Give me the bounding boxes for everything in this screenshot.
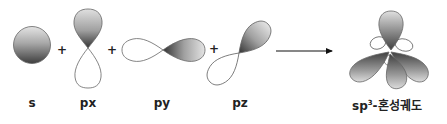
label-sp3-prefix: sp	[352, 99, 368, 113]
plus-operator-2: +	[107, 43, 117, 57]
py-orbital	[122, 39, 205, 62]
label-sp3-hybrid: sp3-혼성궤도	[352, 96, 442, 113]
label-sp3-suffix: -혼성궤도	[373, 99, 422, 113]
px-orbital	[74, 9, 102, 88]
plus-operator-1: +	[57, 43, 67, 57]
label-s: s	[22, 96, 42, 110]
label-px: px	[76, 96, 100, 110]
label-pz: pz	[228, 96, 252, 110]
plus-operator-3: +	[209, 42, 219, 56]
arrow-icon	[276, 48, 333, 54]
sp3-hybrid-orbital	[350, 11, 429, 89]
label-py: py	[150, 96, 174, 110]
s-orbital	[14, 27, 51, 64]
